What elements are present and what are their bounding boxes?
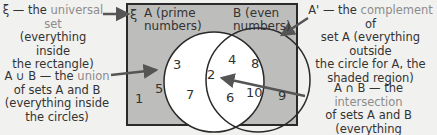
num-9: 9	[278, 89, 286, 103]
term-complement: complement	[361, 3, 433, 17]
union-note: A ∪ B — the union of sets A and B (every…	[2, 70, 112, 124]
complement-note: A' — the complement of set A (everything…	[304, 4, 437, 85]
universal-set-note: ξ — the universal set (everything inside…	[2, 4, 104, 72]
term-union: union	[77, 69, 109, 83]
set-a-label: A (prime numbers)	[144, 7, 202, 33]
set-a-name: A	[144, 6, 152, 20]
term-universal-set: universal set	[44, 3, 103, 31]
num-3: 3	[173, 58, 181, 72]
num-7: 7	[186, 88, 194, 102]
num-5: 5	[155, 82, 163, 96]
num-2: 2	[207, 68, 215, 82]
num-1: 1	[135, 92, 143, 106]
set-a-desc: (prime	[156, 6, 196, 20]
num-4: 4	[228, 53, 236, 67]
num-6: 6	[226, 91, 234, 105]
set-a-circle	[164, 32, 264, 132]
universal-symbol: ξ	[130, 8, 137, 22]
num-8: 8	[251, 57, 259, 71]
set-b-name: B	[233, 6, 241, 20]
set-b-desc2: numbers)	[233, 19, 291, 33]
set-b-desc: (even	[245, 6, 279, 20]
term-intersection: intersection	[334, 95, 402, 109]
set-b-label: B (even numbers)	[233, 7, 291, 33]
intersection-note: A ∩ B — the intersection of sets A and B…	[300, 82, 437, 135]
num-10: 10	[246, 86, 263, 100]
set-a-desc2: numbers)	[144, 19, 202, 33]
